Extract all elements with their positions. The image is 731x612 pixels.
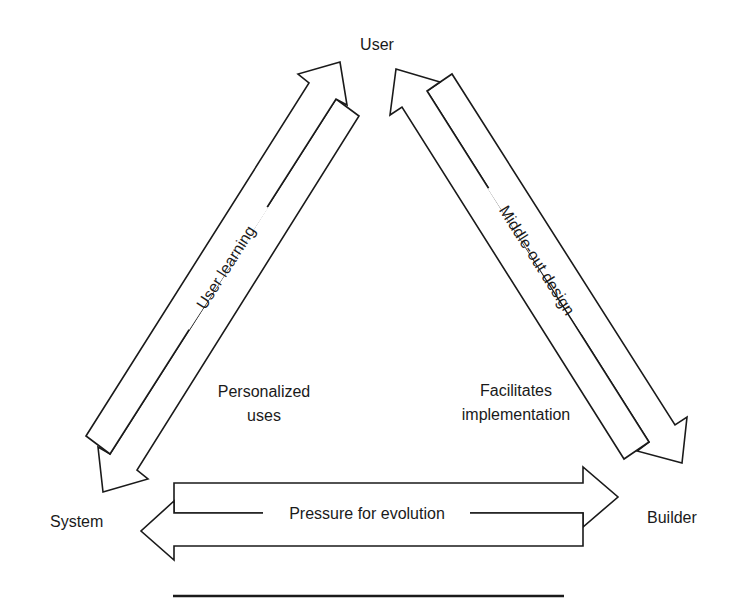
user-builder-double-arrow: Middle-out design bbox=[390, 69, 687, 463]
arrow-builder-to-user bbox=[390, 69, 649, 459]
node-system: System bbox=[50, 513, 103, 530]
facilitates-implementation-line2: implementation bbox=[462, 406, 571, 423]
personalized-uses-line1: Personalized bbox=[218, 383, 311, 400]
system-builder-double-arrow: Pressure for evolution bbox=[141, 467, 618, 560]
arrow-user-to-builder bbox=[427, 74, 687, 463]
personalized-uses-line2: uses bbox=[247, 407, 281, 424]
facilitates-implementation-line1: Facilitates bbox=[480, 382, 552, 399]
node-builder: Builder bbox=[647, 509, 697, 526]
arrow-user-to-system bbox=[98, 99, 359, 492]
node-user: User bbox=[360, 36, 394, 53]
pressure-for-evolution-label: Pressure for evolution bbox=[289, 505, 445, 522]
user-system-double-arrow: User learning bbox=[86, 62, 359, 492]
adaptive-design-triangle-diagram: User learning Middle-out design Pressure… bbox=[0, 0, 731, 612]
